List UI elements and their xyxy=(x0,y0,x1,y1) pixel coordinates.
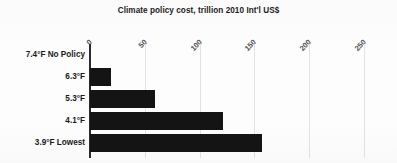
chart-row: 6.3°F xyxy=(0,68,397,86)
category-label-4: 4.1°F xyxy=(0,112,85,130)
chart-row: 3.9°F Lowest xyxy=(0,134,397,152)
chart-row: 4.1°F xyxy=(0,112,397,130)
bar-5 xyxy=(90,134,262,152)
category-label-2: 6.3°F xyxy=(0,68,85,86)
category-label-5: 3.9°F Lowest xyxy=(0,134,85,152)
chart-row: 5.3°F xyxy=(0,90,397,108)
x-axis-tick-labels: 050100150200250 xyxy=(0,0,397,44)
chart-row: 7.4°F No Policy xyxy=(0,46,397,64)
category-label-1: 7.4°F No Policy xyxy=(0,46,85,64)
bar-2 xyxy=(90,68,111,86)
category-label-3: 5.3°F xyxy=(0,90,85,108)
bar-chart: Climate policy cost, trillion 2010 Int'l… xyxy=(0,0,397,163)
bar-3 xyxy=(90,90,155,108)
bar-4 xyxy=(90,112,223,130)
